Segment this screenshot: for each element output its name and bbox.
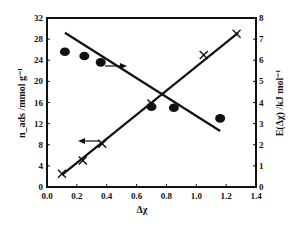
y-right-tick-label: 5 (259, 76, 264, 86)
chart: 0.00.20.40.60.81.01.21.4 048121620242832… (0, 0, 293, 228)
y-right-tick-label: 3 (259, 119, 264, 129)
y-right-tick-label: 6 (259, 55, 264, 65)
y-right-tick-label: 2 (259, 140, 264, 150)
cross-marker (200, 51, 208, 59)
x-axis-label: Δχ (137, 204, 148, 215)
y-left-tick-label: 0 (39, 182, 44, 192)
y-right-tick-label: 8 (259, 13, 264, 23)
circle-marker (215, 114, 225, 123)
cross-marker (233, 30, 241, 38)
x-tick-label: 0.2 (71, 191, 83, 201)
circle-marker (96, 58, 106, 67)
series-arrows (78, 63, 127, 144)
circle-marker (60, 48, 70, 57)
y-left-tick-label: 24 (34, 55, 44, 65)
arrow-right-head (120, 63, 127, 69)
x-tick-label: 1.0 (191, 191, 203, 201)
x-tick-label: 0.4 (101, 191, 113, 201)
y-left-tick-label: 16 (34, 98, 44, 108)
y-left-tick-label: 12 (34, 119, 44, 129)
y-left-tick-label: 32 (34, 13, 44, 23)
x-tick-label: 0.0 (41, 191, 53, 201)
y-left-tick-label: 8 (39, 140, 44, 150)
y-right-axis-label: E(Δχ) /kJ mol⁻¹ (274, 70, 286, 137)
y-right-tick-label: 0 (259, 182, 264, 192)
x-tick-label: 0.8 (161, 191, 173, 201)
circle-marker (79, 52, 89, 61)
x-tick-label: 0.6 (131, 191, 143, 201)
y-right-tick-label: 4 (259, 98, 264, 108)
y-left-axis-label: n_ads /mmol g⁻¹ (16, 68, 27, 138)
circle-marker (169, 103, 179, 112)
x-tick-label: 1.4 (250, 191, 262, 201)
y-left-tick-label: 28 (34, 34, 44, 44)
y-left-tick-label: 4 (39, 161, 44, 171)
y-right-tick-label: 1 (259, 161, 264, 171)
y-right-tick-label: 7 (259, 34, 264, 44)
fit-line (65, 33, 220, 131)
arrow-left-head (78, 138, 85, 144)
x-tick-label: 1.2 (221, 191, 233, 201)
circle-marker (147, 102, 157, 111)
y-right-axis-ticks: 012345678 (253, 13, 264, 192)
y-left-tick-label: 20 (34, 76, 44, 86)
